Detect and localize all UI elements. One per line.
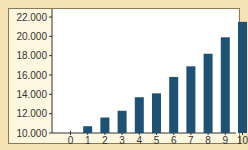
x-tick-label: 9 <box>223 135 229 146</box>
bar <box>169 77 178 133</box>
bar <box>135 97 144 133</box>
y-tick-label: 18.000 <box>16 50 47 61</box>
x-tick-label: 3 <box>119 135 125 146</box>
bar <box>118 111 127 133</box>
x-tick-label: 2 <box>102 135 108 146</box>
x-tick-label: 5 <box>154 135 160 146</box>
bar <box>186 66 195 133</box>
x-tick-label: 4 <box>137 135 143 146</box>
bar <box>221 37 230 133</box>
x-tick-label: 8 <box>205 135 211 146</box>
bar <box>238 22 247 133</box>
y-tick-label: 12.000 <box>16 108 47 119</box>
y-tick-label: 14.000 <box>16 89 47 100</box>
y-tick-label: 22.000 <box>16 12 47 23</box>
y-tick-label: 10.000 <box>16 128 47 139</box>
x-tick-label: 1 <box>85 135 91 146</box>
bar <box>100 118 109 133</box>
bar <box>152 93 161 133</box>
bar <box>83 126 92 133</box>
y-tick-label: 20.000 <box>16 31 47 42</box>
x-tick-label: 0 <box>68 135 74 146</box>
x-tick-label: 10 <box>237 135 248 146</box>
bar-chart: 10.00012.00014.00016.00018.00020.00022.0… <box>0 0 248 150</box>
x-tick-label: 7 <box>188 135 194 146</box>
x-tick-label: 6 <box>171 135 177 146</box>
bar <box>204 54 213 133</box>
y-tick-label: 16.000 <box>16 70 47 81</box>
